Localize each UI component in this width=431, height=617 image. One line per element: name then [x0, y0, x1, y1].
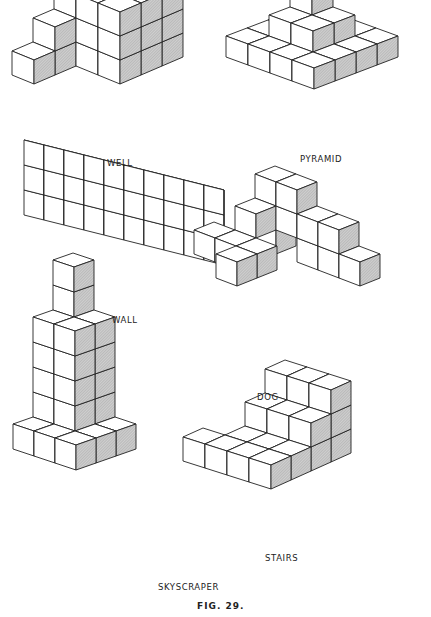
well-structure: [12, 0, 183, 84]
wall-label: WALL: [112, 315, 138, 325]
pyramid-label: PYRAMID: [300, 154, 342, 164]
well-label: WELL: [107, 158, 133, 168]
figure-caption: FIG. 29.: [197, 601, 244, 611]
pyramid-structure: [226, 0, 398, 89]
skyscraper-label: SKYSCRAPER: [158, 582, 219, 592]
dog-structure: [194, 166, 380, 286]
skyscraper-structure: [13, 253, 136, 470]
block-structures-figure: [0, 0, 431, 617]
dog-label: DOG: [257, 392, 279, 402]
stairs-structure: [183, 360, 351, 489]
stairs-label: STAIRS: [265, 553, 298, 563]
